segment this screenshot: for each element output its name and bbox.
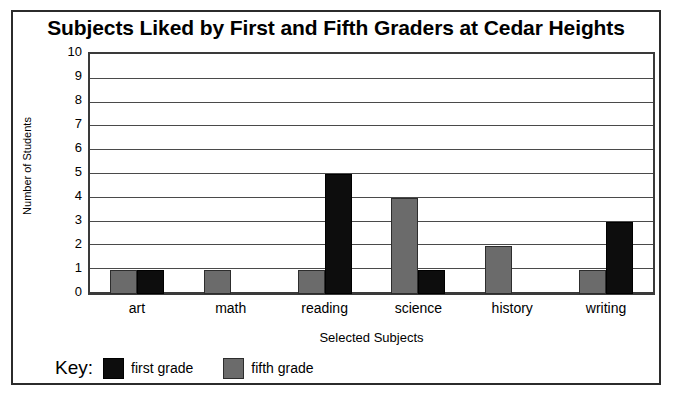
y-tick-label: 9 [52,69,82,82]
x-tick-label-math: math [184,300,278,316]
y-tick-label: 6 [52,141,82,154]
bar-groups [90,54,653,294]
x-axis-label: Selected Subjects [88,330,655,345]
chart-legend: Key: first grade fifth grade [55,357,314,379]
legend-label-first-grade: first grade [131,360,193,376]
x-tick-label-art: art [90,300,184,316]
y-tick-label: 1 [52,261,82,274]
bar-history-fifth-grade [485,246,512,294]
gray-swatch-icon [223,358,244,379]
black-swatch-icon [103,358,124,379]
chart-title: Subjects Liked by First and Fifth Grader… [11,16,661,40]
bar-group-art [90,54,184,294]
bar-science-fifth-grade [391,198,418,294]
legend-item-first-grade: first grade [103,358,193,379]
y-tick-label: 10 [52,45,82,58]
legend-label-fifth-grade: fifth grade [251,360,313,376]
legend-item-fifth-grade: fifth grade [223,358,313,379]
x-tick-label-writing: writing [559,300,653,316]
bar-science-first-grade [418,270,445,294]
y-tick-label: 5 [52,165,82,178]
x-axis-ticks: artmathreadingsciencehistorywriting [90,300,653,316]
y-axis-label: Number of Students [21,106,33,226]
y-tick-label: 8 [52,93,82,106]
y-tick-label: 2 [52,237,82,250]
bar-math-fifth-grade [204,270,231,294]
bar-group-math [184,54,278,294]
y-tick-label: 0 [52,285,82,298]
bar-reading-first-grade [325,174,352,294]
y-tick-label: 4 [52,189,82,202]
bar-writing-fifth-grade [579,270,606,294]
x-tick-label-science: science [371,300,465,316]
bar-reading-fifth-grade [298,270,325,294]
legend-title: Key: [55,357,93,379]
bar-art-fifth-grade [110,270,137,294]
bar-group-reading [278,54,372,294]
bar-group-writing [559,54,653,294]
y-tick-label: 7 [52,117,82,130]
bar-writing-first-grade [606,222,633,294]
bar-group-science [371,54,465,294]
x-tick-label-history: history [465,300,559,316]
bar-art-first-grade [137,270,164,294]
chart-figure: Subjects Liked by First and Fifth Grader… [0,0,674,397]
bar-group-history [465,54,559,294]
y-tick-label: 3 [52,213,82,226]
x-tick-label-reading: reading [278,300,372,316]
y-axis-ticks: 109876543210 [52,52,82,295]
